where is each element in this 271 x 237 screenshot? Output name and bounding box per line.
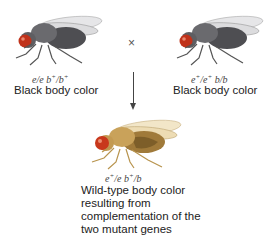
offspring-phenotype-line-2: resulting from [81,197,201,210]
offspring-genotype: e+/e b+/b [105,173,141,184]
offspring-phenotype-line-4: two mutant genes [81,223,201,236]
arrow-down-line [133,72,134,105]
wild-type-fly-image [84,112,184,170]
right-parent-phenotype: Black body color [173,84,257,97]
black-fly-right-image [169,8,264,66]
cross-symbol: × [128,36,135,50]
black-fly-left-image [8,8,103,66]
arrow-down-icon [130,103,136,110]
offspring-phenotype: Wild-type body color resulting from comp… [81,184,201,236]
left-parent-phenotype: Black body color [14,84,98,97]
offspring-phenotype-line-3: complementation of the [81,210,201,223]
offspring-phenotype-line-1: Wild-type body color [81,184,201,197]
